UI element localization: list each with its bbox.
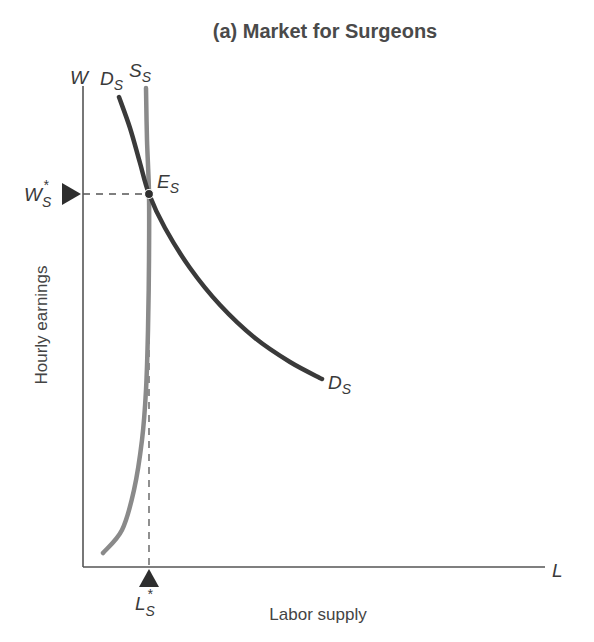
x-axis-symbol: L [552,560,563,581]
y-axis-label: Hourly earnings [32,265,51,384]
wage-marker-icon [62,183,81,205]
supply-curve [103,88,149,553]
equilibrium-quantity-star: * [147,586,153,602]
equilibrium-point [145,190,154,199]
supply-label-top: SS [129,60,152,85]
demand-label-bottom: DS [328,372,352,397]
quantity-marker-icon [139,569,159,587]
equilibrium-label: ES [157,171,180,196]
demand-label-top: DS [100,68,124,93]
x-axis-label: Labor supply [269,605,367,624]
y-axis-symbol: W [70,67,90,88]
equilibrium-wage-star: * [43,177,49,193]
chart-title: (a) Market for Surgeons [213,20,437,42]
chart: (a) Market for Surgeons W L Hourly earni… [0,0,594,642]
equilibrium-quantity-label: LS [135,593,156,619]
